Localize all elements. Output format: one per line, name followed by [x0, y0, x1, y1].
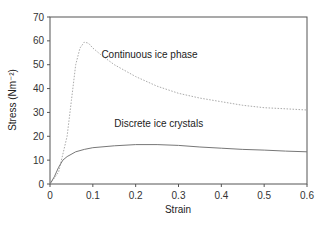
y-tick-label: 70 [33, 12, 45, 23]
y-tick-label: 60 [33, 35, 45, 46]
y-tick-label: 50 [33, 59, 45, 70]
series-line [50, 42, 307, 184]
x-tick-label: 0.3 [172, 190, 186, 201]
x-tick-label: 0.5 [257, 190, 271, 201]
annotation-label: Continuous ice phase [101, 49, 198, 60]
y-tick-label: 20 [33, 131, 45, 142]
annotation-label: Discrete ice crystals [114, 118, 203, 129]
plot-frame [50, 17, 307, 184]
y-axis-ticks: 010203040506070 [33, 12, 50, 190]
x-tick-label: 0.2 [129, 190, 143, 201]
y-tick-label: 40 [33, 83, 45, 94]
x-tick-label: 0.1 [86, 190, 100, 201]
y-tick-label: 30 [33, 107, 45, 118]
x-tick-label: 0 [47, 190, 53, 201]
stress-strain-chart: 010203040506070 00.10.20.30.40.50.6 Cont… [0, 0, 326, 229]
x-axis-ticks: 00.10.20.30.40.50.6 [47, 184, 314, 201]
x-tick-label: 0.6 [300, 190, 314, 201]
y-tick-label: 0 [38, 179, 44, 190]
x-axis-label: Strain [165, 204, 191, 215]
y-tick-label: 10 [33, 155, 45, 166]
annotations: Continuous ice phaseDiscrete ice crystal… [101, 49, 203, 129]
x-tick-label: 0.4 [214, 190, 228, 201]
series-line [50, 145, 307, 184]
series-lines [50, 42, 307, 184]
y-axis-label: Stress (Nm⁻²) [7, 69, 18, 131]
